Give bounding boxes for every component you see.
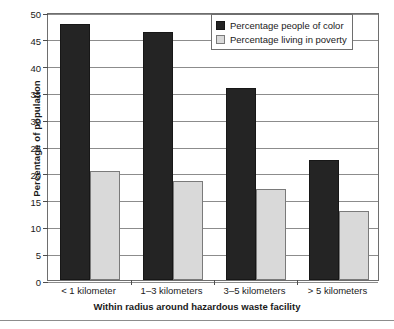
legend-label: Percentage people of color <box>230 20 344 31</box>
y-axis-tick-label: 0 <box>36 277 41 288</box>
y-axis-tick-label: 45 <box>30 35 41 46</box>
y-axis-tick-label: 5 <box>36 250 41 261</box>
bar <box>309 160 339 280</box>
footer-divider <box>0 320 394 321</box>
plot-area: 05101520253035404550 <box>47 13 379 281</box>
bar <box>90 171 120 280</box>
bar-group <box>309 14 369 280</box>
bar <box>256 189 286 280</box>
bar-series-container <box>48 14 378 280</box>
y-axis-tick-label: 50 <box>30 9 41 20</box>
y-axis-tick-label: 25 <box>30 143 41 154</box>
chart-legend: Percentage people of color Percentage li… <box>211 14 353 50</box>
x-axis-tick <box>297 280 298 285</box>
bar <box>226 88 256 280</box>
y-axis-tick-label: 20 <box>30 169 41 180</box>
x-axis-tick-label: 3–5 kilometers <box>224 285 286 296</box>
bar <box>143 32 173 280</box>
y-axis-tick-label: 30 <box>30 116 41 127</box>
bar <box>173 181 203 280</box>
bar-group <box>143 14 203 280</box>
legend-item-living-in-poverty: Percentage living in poverty <box>216 32 347 46</box>
bar-group <box>60 14 120 280</box>
y-axis-tick-label: 35 <box>30 89 41 100</box>
x-axis-tick-label: 1–3 kilometers <box>141 285 203 296</box>
x-axis-title: Within radius around hazardous waste fac… <box>0 301 394 312</box>
bar <box>60 24 90 280</box>
gridline <box>48 282 378 283</box>
x-axis-tick-label: < 1 kilometer <box>61 285 116 296</box>
y-axis-tick-label: 10 <box>30 223 41 234</box>
x-axis-tick-label: > 5 kilometers <box>308 285 367 296</box>
legend-label: Percentage living in poverty <box>230 34 347 45</box>
x-axis-tick <box>214 280 215 285</box>
bar <box>339 211 369 280</box>
y-axis-tick <box>43 282 48 283</box>
bar-group <box>226 14 286 280</box>
y-axis-tick-label: 15 <box>30 196 41 207</box>
legend-swatch-icon <box>216 21 225 30</box>
x-axis-tick <box>131 280 132 285</box>
legend-item-people-of-color: Percentage people of color <box>216 18 347 32</box>
y-axis-tick-label: 40 <box>30 62 41 73</box>
legend-swatch-icon <box>216 35 225 44</box>
bar-chart-figure: Percentage of population 051015202530354… <box>0 0 394 329</box>
